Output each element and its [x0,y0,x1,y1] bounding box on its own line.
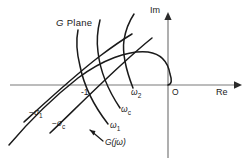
nyquist-locus-curve [9,52,171,145]
figure-title-text: Plane [67,17,93,28]
omega-2-subscript: 2 [138,92,142,99]
omega-1-symbol: ω [110,120,117,130]
imaginary-axis-arrowhead [164,12,171,20]
sigma-1-label: −σ1 [29,108,43,119]
g-plane-nyquist-figure: G Plane Im Re O -1 −σ1 −σc ω1 ωc ω2 G(jω… [0,0,245,162]
omega-c-subscript: c [128,109,131,116]
real-axis-arrowhead [234,81,242,89]
real-axis-label: Re [216,88,228,97]
omega-2-symbol: ω [131,87,138,97]
sigma-c-subscript: c [62,123,65,130]
omega-c-label: ωc [121,105,131,116]
imaginary-axis-label: Im [150,6,160,15]
constant-omega-2-curve [123,14,134,88]
sigma-c-label: −σc [52,119,65,130]
origin-label: O [172,88,179,97]
omega-1-label: ω1 [110,121,120,132]
critical-point-label: -1 [81,88,89,97]
transfer-function-label: G(jω) [105,138,126,147]
figure-title-symbol: G [56,17,64,28]
omega-1-subscript: 1 [117,125,121,132]
omega-c-symbol: ω [121,104,128,114]
figure-title: G Plane [56,18,92,28]
sigma-1-subscript: 1 [39,112,43,119]
omega-2-label: ω2 [131,88,141,99]
